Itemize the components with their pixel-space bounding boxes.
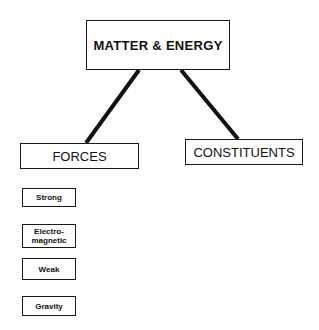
force-node-label: Weak	[39, 265, 60, 274]
connector-root-constituents	[181, 70, 238, 139]
root-node-matter-energy: MATTER & ENERGY	[86, 20, 230, 70]
force-node-electromagnetic: Electro- magnetic	[22, 224, 76, 248]
force-node-weak: Weak	[22, 258, 76, 280]
force-node-label: Strong	[36, 193, 62, 202]
force-node-gravity: Gravity	[22, 296, 76, 316]
force-node-label: Electro- magnetic	[31, 227, 66, 245]
connector-root-forces	[86, 70, 139, 143]
root-node-label: MATTER & ENERGY	[93, 38, 222, 53]
category-node-constituents: CONSTITUENTS	[185, 139, 303, 165]
force-node-label: Gravity	[35, 302, 63, 311]
category-node-label: CONSTITUENTS	[193, 145, 294, 160]
force-node-strong: Strong	[22, 188, 76, 207]
category-node-forces: FORCES	[20, 143, 139, 169]
category-node-label: FORCES	[52, 149, 106, 164]
